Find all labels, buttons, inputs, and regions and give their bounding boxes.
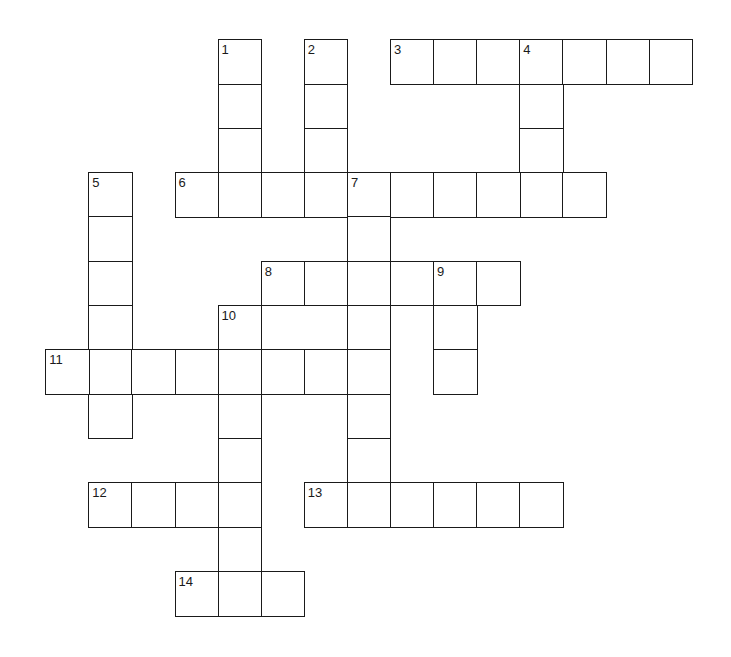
clue-number: 1 bbox=[222, 43, 229, 56]
clue-number: 8 bbox=[265, 265, 272, 278]
crossword-cell[interactable] bbox=[476, 39, 521, 85]
crossword-cell[interactable]: 1 bbox=[218, 39, 263, 85]
crossword-cell[interactable] bbox=[131, 349, 176, 395]
crossword-cell[interactable] bbox=[519, 128, 564, 174]
crossword-cell[interactable]: 13 bbox=[304, 482, 349, 528]
crossword-cell[interactable] bbox=[218, 571, 263, 617]
crossword-cell[interactable]: 7 bbox=[347, 172, 392, 218]
crossword-cell[interactable] bbox=[88, 216, 133, 262]
crossword-cell[interactable]: 4 bbox=[519, 39, 564, 85]
clue-number: 2 bbox=[308, 43, 315, 56]
crossword-cell[interactable] bbox=[175, 482, 220, 528]
crossword-cell[interactable]: 9 bbox=[433, 261, 478, 307]
clue-number: 12 bbox=[92, 486, 106, 499]
crossword-cell[interactable] bbox=[175, 349, 220, 395]
crossword-cell[interactable]: 10 bbox=[218, 305, 263, 351]
crossword-cell[interactable] bbox=[218, 438, 263, 484]
crossword-cell[interactable]: 2 bbox=[304, 39, 349, 85]
crossword-cell[interactable] bbox=[649, 39, 694, 85]
crossword-cell[interactable] bbox=[218, 527, 263, 573]
clue-number: 11 bbox=[49, 353, 63, 366]
crossword-cell[interactable] bbox=[433, 349, 478, 395]
crossword-cell[interactable]: 8 bbox=[261, 261, 306, 307]
crossword-cell[interactable] bbox=[606, 39, 651, 85]
crossword-cell[interactable] bbox=[390, 482, 435, 528]
clue-number: 3 bbox=[394, 43, 401, 56]
clue-number: 9 bbox=[437, 265, 444, 278]
crossword-cell[interactable] bbox=[519, 172, 564, 218]
crossword-cell[interactable] bbox=[347, 305, 392, 351]
crossword-cell[interactable] bbox=[261, 172, 306, 218]
crossword-cell[interactable] bbox=[88, 349, 133, 395]
crossword-cell[interactable] bbox=[88, 305, 133, 351]
crossword-cell[interactable] bbox=[88, 261, 133, 307]
crossword-cell[interactable] bbox=[304, 172, 349, 218]
crossword-cell[interactable] bbox=[88, 394, 133, 440]
clue-number: 10 bbox=[222, 309, 236, 322]
crossword-cell[interactable] bbox=[347, 438, 392, 484]
crossword-cell[interactable] bbox=[218, 349, 263, 395]
clue-number: 13 bbox=[308, 486, 322, 499]
crossword-cell[interactable] bbox=[390, 172, 435, 218]
crossword-cell[interactable] bbox=[347, 394, 392, 440]
crossword-cell[interactable] bbox=[218, 128, 263, 174]
crossword-cell[interactable] bbox=[218, 482, 263, 528]
crossword-cell[interactable] bbox=[562, 172, 607, 218]
clue-number: 6 bbox=[179, 176, 186, 189]
clue-number: 4 bbox=[523, 43, 530, 56]
crossword-cell[interactable] bbox=[476, 172, 521, 218]
crossword-cell[interactable] bbox=[347, 349, 392, 395]
clue-number: 14 bbox=[179, 575, 193, 588]
crossword-cell[interactable]: 5 bbox=[88, 172, 133, 218]
crossword-cell[interactable] bbox=[476, 482, 521, 528]
crossword-cell[interactable] bbox=[218, 172, 263, 218]
crossword-cell[interactable] bbox=[390, 261, 435, 307]
crossword-cell[interactable] bbox=[304, 84, 349, 130]
clue-number: 7 bbox=[351, 176, 358, 189]
clue-number: 5 bbox=[92, 176, 99, 189]
crossword-cell[interactable] bbox=[433, 482, 478, 528]
crossword-cell[interactable] bbox=[261, 571, 306, 617]
crossword-cell[interactable] bbox=[347, 261, 392, 307]
crossword-cell[interactable] bbox=[347, 216, 392, 262]
crossword-cell[interactable] bbox=[433, 305, 478, 351]
crossword-cell[interactable] bbox=[261, 349, 306, 395]
crossword-cell[interactable] bbox=[304, 128, 349, 174]
crossword-cell[interactable]: 14 bbox=[175, 571, 220, 617]
crossword-cell[interactable] bbox=[433, 172, 478, 218]
crossword-cell[interactable] bbox=[304, 261, 349, 307]
crossword-cell[interactable] bbox=[304, 349, 349, 395]
crossword-cell[interactable] bbox=[476, 261, 521, 307]
crossword-cell[interactable] bbox=[218, 84, 263, 130]
crossword-grid: 1234567891011121314 bbox=[0, 0, 731, 657]
crossword-cell[interactable]: 3 bbox=[390, 39, 435, 85]
crossword-cell[interactable] bbox=[218, 394, 263, 440]
crossword-cell[interactable]: 6 bbox=[175, 172, 220, 218]
crossword-cell[interactable] bbox=[433, 39, 478, 85]
crossword-cell[interactable] bbox=[347, 482, 392, 528]
crossword-cell[interactable] bbox=[131, 482, 176, 528]
crossword-cell[interactable]: 11 bbox=[45, 349, 90, 395]
crossword-cell[interactable] bbox=[519, 482, 564, 528]
crossword-cell[interactable] bbox=[519, 84, 564, 130]
crossword-cell[interactable]: 12 bbox=[88, 482, 133, 528]
crossword-cell[interactable] bbox=[562, 39, 607, 85]
